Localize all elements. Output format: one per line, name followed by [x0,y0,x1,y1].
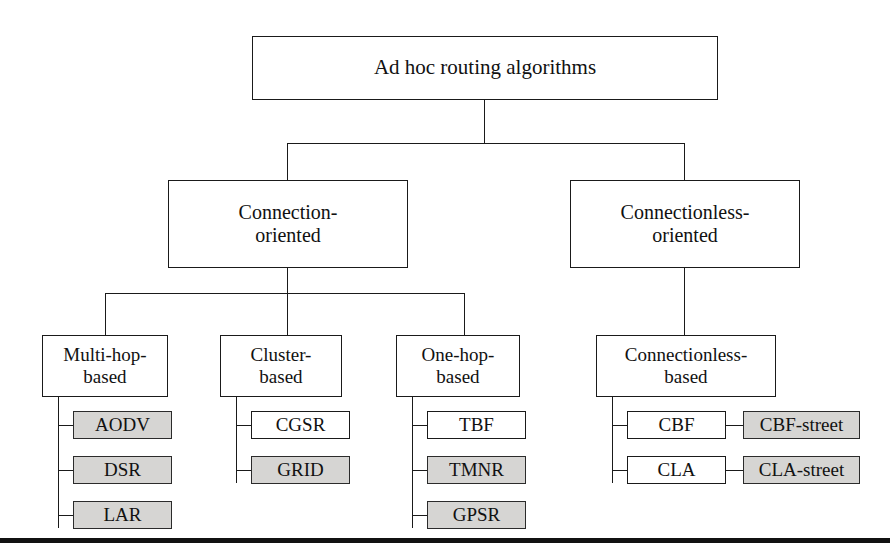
connector-multi-hop-spine [58,397,59,528]
node-connectionless-oriented: Connectionless- oriented [570,180,800,268]
leaf-cgsr: CGSR [251,411,350,439]
connector-cluster-to-grid [236,470,252,471]
connector-connection-oriented-bar [105,293,465,294]
leaf-grid: GRID [251,456,350,484]
connector-cluster-to-cgsr [236,425,252,426]
connector-root-stem [484,100,485,144]
node-connectionless-based: Connectionless- based [596,335,776,397]
leaf-cbf-street: CBF-street [743,411,860,439]
leaf-lar: LAR [73,501,172,529]
connector-to-multi-hop-based [105,293,106,336]
node-connection-oriented: Connection- oriented [168,180,408,268]
connector-cla-to-cla-street [726,470,744,471]
connector-to-connectionless-based [684,268,685,336]
connector-root-to-connection-oriented [287,143,288,181]
node-one-hop-based: One-hop- based [396,335,520,397]
connector-connectionless-to-cla [612,470,628,471]
diagram-canvas: Ad hoc routing algorithms Connection- or… [0,0,890,556]
connector-multi-hop-to-lar [58,515,74,516]
connector-to-one-hop-based [464,293,465,336]
bottom-rule [0,538,890,543]
connector-one-hop-to-tmnr [412,470,428,471]
node-root-ad-hoc-routing-algorithms: Ad hoc routing algorithms [252,36,718,100]
leaf-dsr: DSR [73,456,172,484]
leaf-cbf: CBF [627,411,726,439]
leaf-tbf: TBF [427,411,526,439]
connector-one-hop-to-gpsr [412,515,428,516]
connector-root-to-connectionless-oriented [684,143,685,181]
leaf-aodv: AODV [73,411,172,439]
leaf-gpsr: GPSR [427,501,526,529]
node-cluster-based: Cluster- based [220,335,342,397]
connector-root-bar [287,143,685,144]
connector-multi-hop-to-aodv [58,425,74,426]
leaf-cla: CLA [627,456,726,484]
leaf-tmnr: TMNR [427,456,526,484]
leaf-cla-street: CLA-street [743,456,860,484]
node-multi-hop-based: Multi-hop- based [42,335,168,397]
connector-cbf-to-cbf-street [726,425,744,426]
connector-multi-hop-to-dsr [58,470,74,471]
connector-one-hop-spine [412,397,413,528]
connector-connection-oriented-stem [287,268,288,294]
connector-one-hop-to-tbf [412,425,428,426]
connector-to-cluster-based [287,293,288,336]
connector-connectionless-to-cbf [612,425,628,426]
